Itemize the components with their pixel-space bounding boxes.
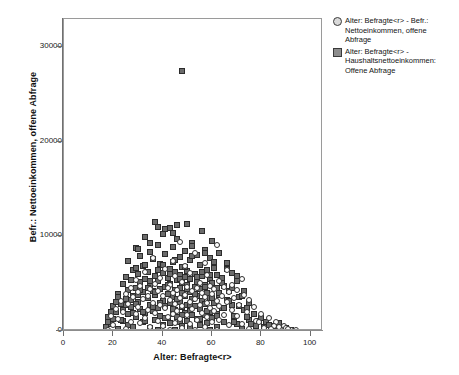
data-point-circle [214, 242, 220, 248]
x-tick-label: 100 [293, 338, 327, 347]
data-point-circle [130, 294, 136, 300]
data-point-circle [221, 312, 227, 318]
data-point-circle [192, 250, 198, 256]
y-tick: 10000 [0, 235, 62, 236]
data-point-circle [155, 288, 161, 294]
y-tick: 20000 [0, 141, 62, 142]
data-point-square [216, 250, 222, 256]
data-point-circle [192, 327, 198, 330]
legend-circle-icon [333, 17, 342, 26]
x-tick-mark [112, 331, 113, 336]
y-tick-label: 30000 [14, 41, 62, 50]
data-point-circle [179, 325, 185, 330]
x-tick-label: 20 [95, 338, 129, 347]
data-point-circle [187, 299, 193, 305]
legend-square-icon [333, 48, 342, 57]
data-point-square [221, 305, 227, 311]
data-point-circle [128, 319, 134, 325]
data-point-circle [229, 282, 235, 288]
data-point-square [162, 251, 168, 257]
data-point-square [115, 326, 121, 330]
data-point-circle [170, 290, 176, 296]
data-point-circle [167, 327, 173, 330]
data-point-circle [209, 319, 215, 325]
y-tick-mark [56, 235, 62, 236]
y-tick-mark [56, 330, 62, 331]
data-point-square [189, 243, 195, 249]
data-point-square [170, 230, 176, 236]
data-point-circle [239, 321, 245, 327]
data-point-square [211, 259, 217, 265]
data-point-circle [165, 285, 171, 291]
data-point-circle [231, 295, 237, 301]
data-point-circle [177, 239, 183, 245]
data-point-square [155, 242, 161, 248]
data-point-circle [293, 327, 299, 330]
x-tick-label: 0 [46, 338, 80, 347]
y-tick-mark [56, 141, 62, 142]
data-point-circle [276, 324, 282, 330]
y-tick: 30000 [0, 46, 62, 47]
data-point-square [135, 246, 141, 252]
x-axis-line [62, 330, 323, 331]
x-tick-mark [162, 331, 163, 336]
legend-entry: Alter: Befragte<r> - Befr.: Nettoeinkomm… [333, 16, 457, 45]
data-point-circle [108, 313, 114, 319]
data-point-circle [120, 309, 126, 315]
data-point-circle [236, 302, 242, 308]
data-point-circle [123, 291, 129, 297]
data-point-circle [234, 313, 240, 319]
data-point-square [184, 221, 190, 227]
data-point-circle [268, 326, 274, 330]
data-point-circle [152, 310, 158, 316]
data-point-circle [251, 304, 257, 310]
data-point-circle [224, 299, 230, 305]
data-point-circle [246, 297, 252, 303]
data-point-square [182, 248, 188, 254]
data-point-circle [123, 326, 129, 330]
y-axis-title: Befr.: Nettoeinkommen, offene Abfrage [28, 7, 42, 307]
data-point-square [137, 253, 143, 259]
chart-legend: Alter: Befragte<r> - Befr.: Nettoeinkomm… [333, 16, 457, 77]
data-point-circle [150, 255, 156, 261]
data-point-circle [137, 320, 143, 326]
data-point-circle [133, 277, 139, 283]
legend-label: Alter: Befragte<r> - Haushaltsnettoeinko… [345, 47, 453, 76]
data-point-circle [177, 316, 183, 322]
data-point-circle [128, 285, 134, 291]
data-point-circle [140, 296, 146, 302]
data-point-square [251, 311, 257, 317]
data-point-circle [266, 315, 272, 321]
data-point-circle [165, 314, 171, 320]
y-tick: 0 [0, 330, 62, 331]
x-tick-mark [310, 331, 311, 336]
data-point-circle [219, 293, 225, 299]
x-tick-label: 80 [243, 338, 277, 347]
y-tick-label: 0 [14, 325, 62, 334]
y-tick-label: 10000 [14, 230, 62, 239]
plot-area [63, 18, 322, 330]
data-point-circle [261, 325, 267, 330]
data-point-circle [162, 305, 168, 311]
data-point-circle [113, 306, 119, 312]
data-point-circle [246, 326, 252, 330]
data-point-circle [239, 276, 245, 282]
data-point-square [199, 228, 205, 234]
data-point-circle [170, 258, 176, 264]
data-points-layer [64, 19, 321, 329]
data-point-square [147, 249, 153, 255]
data-point-square [147, 240, 153, 246]
data-point-circle [150, 300, 156, 306]
data-point-circle [214, 327, 220, 330]
data-point-square [133, 265, 139, 271]
data-point-circle [105, 327, 111, 330]
data-point-circle [152, 281, 158, 287]
data-point-circle [244, 309, 250, 315]
data-point-circle [147, 324, 153, 330]
x-axis-title: Alter: Befragte<r> [63, 352, 322, 362]
x-tick-mark [260, 331, 261, 336]
data-point-circle [258, 311, 264, 317]
data-point-circle [209, 291, 215, 297]
x-tick-label: 40 [145, 338, 179, 347]
scatter-plot-figure: Befr.: Nettoeinkommen, offene Abfrage 01… [0, 0, 459, 375]
